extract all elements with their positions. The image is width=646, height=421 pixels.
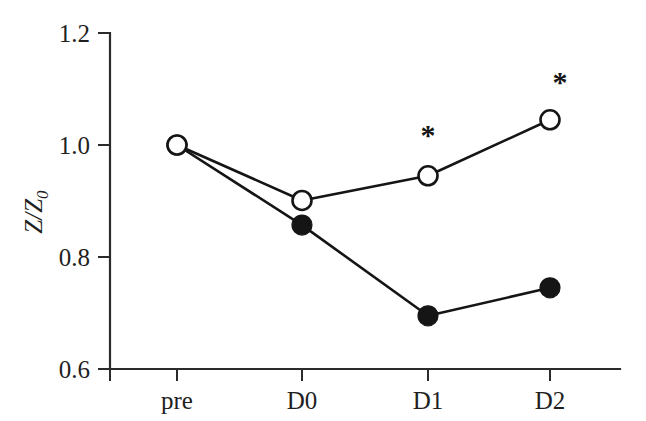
significance-star-d2: *: [553, 65, 568, 98]
figure-container: 1.2 1.0 0.8 0.6 pre D0 D1 D2 Z/Z0 *: [0, 0, 646, 421]
data-point-filled-d1: [418, 306, 438, 326]
y-tick-marks: [98, 33, 110, 369]
x-tick-label-d2: D2: [535, 387, 566, 414]
significance-star-d1: *: [421, 118, 436, 151]
y-tick-labels: 1.2 1.0 0.8 0.6: [59, 20, 90, 383]
data-point-open-pre: [168, 136, 187, 155]
data-point-open-d0: [293, 191, 312, 210]
x-tick-label-d1: D1: [413, 387, 444, 414]
axis-group: [110, 33, 620, 369]
significance-annotations: * *: [421, 65, 568, 151]
series-markers-open: [168, 110, 560, 210]
x-tick-label-pre: pre: [161, 387, 193, 414]
y-tick-label-1.2: 1.2: [59, 20, 90, 47]
data-point-filled-d2: [540, 278, 560, 298]
x-tick-label-d0: D0: [287, 387, 318, 414]
data-point-open-d2: [541, 110, 560, 129]
series-line-open-circle: [177, 120, 550, 201]
series-markers-filled: [167, 135, 560, 326]
series-lines: [177, 120, 550, 316]
y-axis-title-main: Z/Z: [20, 198, 47, 234]
y-tick-label-1.0: 1.0: [59, 132, 90, 159]
y-tick-label-0.8: 0.8: [59, 244, 90, 271]
line-chart: 1.2 1.0 0.8 0.6 pre D0 D1 D2 Z/Z0 *: [0, 0, 646, 421]
y-axis-title-text: Z/Z0: [20, 190, 52, 234]
y-axis-title: Z/Z0: [20, 190, 52, 234]
data-point-filled-d0: [292, 215, 312, 235]
data-point-open-d1: [419, 166, 438, 185]
y-tick-label-0.6: 0.6: [59, 356, 90, 383]
y-axis-title-subscript: 0: [33, 190, 52, 199]
x-tick-labels: pre D0 D1 D2: [161, 387, 565, 414]
